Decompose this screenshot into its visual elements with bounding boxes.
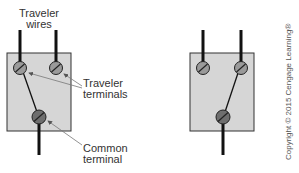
label-traveler-terminals: Traveler terminals [83,78,128,100]
label-line: terminals [83,89,128,100]
traveler-terminal-right-icon [235,62,248,75]
label-line: terminal [83,154,128,165]
copyright-notice: Copyright © 2015 Cengage Learning® [284,24,293,160]
switch-left [7,30,82,155]
label-common-terminal: Common terminal [83,143,128,165]
label-traveler-wires: Traveler wires [14,8,64,30]
label-line: wires [14,19,64,30]
traveler-terminal-left-icon [197,62,210,75]
traveler-terminal-left-icon [14,62,27,75]
traveler-terminal-right-icon [50,62,63,75]
switch-right [190,30,254,155]
common-terminal-icon [216,110,230,124]
common-terminal-icon [32,110,46,124]
